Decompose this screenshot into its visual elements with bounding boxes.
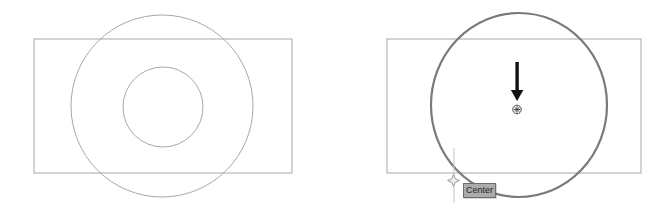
center-snap-marker-icon: [513, 105, 522, 114]
left-inner-circle-entity[interactable]: [123, 67, 203, 147]
cursor-star-icon: [448, 175, 460, 187]
osnap-tooltip: Center: [463, 183, 496, 198]
figure-left: [34, 15, 292, 197]
cad-drawing-svg: [0, 0, 645, 214]
drawing-canvas: Center: [0, 0, 645, 214]
right-circle-entity-highlighted[interactable]: [431, 13, 607, 197]
down-arrow-icon: [511, 62, 524, 101]
figure-right: [387, 13, 641, 203]
osnap-tooltip-label: Center: [466, 185, 493, 195]
left-outer-circle-entity[interactable]: [71, 15, 253, 197]
